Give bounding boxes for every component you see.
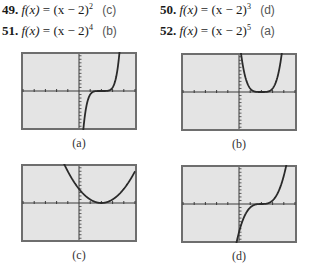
graph-label-d: (d) [219,249,259,264]
exercise-49: 49. f(x) = (x − 2)2 (c) [2,2,116,18]
graph-c [21,164,137,242]
graph-screen [21,52,137,130]
function-expression: f(x) = (x − 2)3 [180,2,251,17]
function-expression: f(x) = (x − 2)5 [180,23,251,38]
graph-d [181,165,297,243]
graph-screen [21,164,137,242]
exercise-52: 52. f(x) = (x − 2)5 (a) [160,23,275,39]
graph-label-a: (a) [59,136,99,151]
exercise-number: 49. [2,2,18,17]
graph-screen [181,165,297,243]
graph-b [181,53,297,131]
graph-a [21,52,137,130]
graph-label-b: (b) [219,137,259,152]
graph-label-c: (c) [59,248,99,263]
exercise-number: 50. [160,2,176,17]
exercise-number: 52. [160,23,176,38]
answer-label: (a) [260,24,275,38]
function-expression: f(x) = (x − 2)4 [22,23,93,38]
exercise-50: 50. f(x) = (x − 2)3 (d) [160,2,275,18]
graph-screen [181,53,297,131]
exercise-51: 51. f(x) = (x − 2)4 (b) [2,23,117,39]
answer-label: (b) [102,24,117,38]
answer-label: (c) [102,3,116,17]
function-expression: f(x) = (x − 2)2 [22,2,93,17]
exercise-number: 51. [2,23,18,38]
answer-label: (d) [260,3,275,17]
